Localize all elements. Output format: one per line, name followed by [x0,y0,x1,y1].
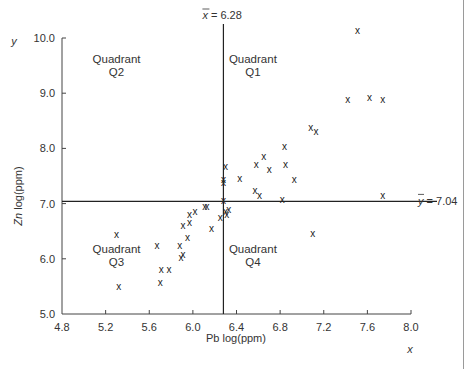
data-point: x [187,217,192,228]
data-point: x [237,173,242,184]
quadrant-label-q3: QuadrantQ3 [93,243,142,268]
y-tick-label: 9.0 [40,87,55,99]
data-point: x [159,264,164,275]
data-point: x [257,190,262,201]
data-point: x [221,195,226,206]
y-tick-label: 7.0 [40,198,55,210]
data-point: x [114,229,119,240]
data-point: x [209,223,214,234]
data-point: x [193,206,198,217]
x-tick-label: 8.0 [403,321,418,333]
x-tick-label: 4.8 [54,321,69,333]
x-axis-title: Pb log(ppm) [206,332,266,344]
y-tick-label: 6.0 [40,253,55,265]
data-point: x [283,159,288,170]
data-point: x [181,220,186,231]
data-point: x [254,159,259,170]
data-point: x [224,209,229,220]
data-point: x [154,240,159,251]
scatter-chart: 4.85.25.66.06.46.87.27.68.05.06.07.08.09… [0,0,465,369]
quadrant-label-q2: QuadrantQ2 [93,53,142,78]
y-tick-label: 8.0 [40,142,55,154]
axis-labels: Pb log(ppm)xyZn log(ppm) [10,35,413,355]
page-border [463,0,464,369]
data-point: x [116,281,121,292]
data-point: x [223,161,228,172]
y-mean-label: y = 7.04 [417,195,457,207]
data-point: x [367,92,372,103]
x-tick-label: 5.2 [98,321,113,333]
data-point: x [310,228,315,239]
data-point: x [205,201,210,212]
axes: 4.85.25.66.06.46.87.27.68.05.06.07.08.09… [34,32,419,333]
x-tick-label: 7.2 [316,321,331,333]
x-tick-label: 6.0 [185,321,200,333]
data-point: x [218,212,223,223]
data-point: x [261,151,266,162]
quadrant-label-q4: QuadrantQ4 [229,243,278,268]
y-tick-label: 5.0 [40,308,55,320]
data-point: x [185,232,190,243]
data-point: x [345,94,350,105]
y-axis-title: Zn log(ppm) [12,166,24,226]
data-point: x [292,174,297,185]
data-point: x [308,122,313,133]
data-point: x [280,194,285,205]
data-point: x [221,177,226,188]
data-point: x [355,25,360,36]
data-point: x [166,264,171,275]
x-tick-label: 6.8 [272,321,287,333]
data-point: x [158,277,163,288]
y-axis-symbol: y [10,35,18,47]
data-point: x [380,94,385,105]
data-point: x [380,190,385,201]
x-mean-label: x = 6.28 [201,9,241,21]
data-point: x [282,141,287,152]
x-axis-symbol: x [406,343,413,355]
x-tick-label: 7.6 [360,321,375,333]
data-point: x [267,164,272,175]
data-point: x [181,249,186,260]
y-tick-label: 10.0 [34,32,55,44]
x-tick-label: 5.6 [142,321,157,333]
data-point: x [314,126,319,137]
quadrant-label-q1: QuadrantQ1 [229,53,278,78]
